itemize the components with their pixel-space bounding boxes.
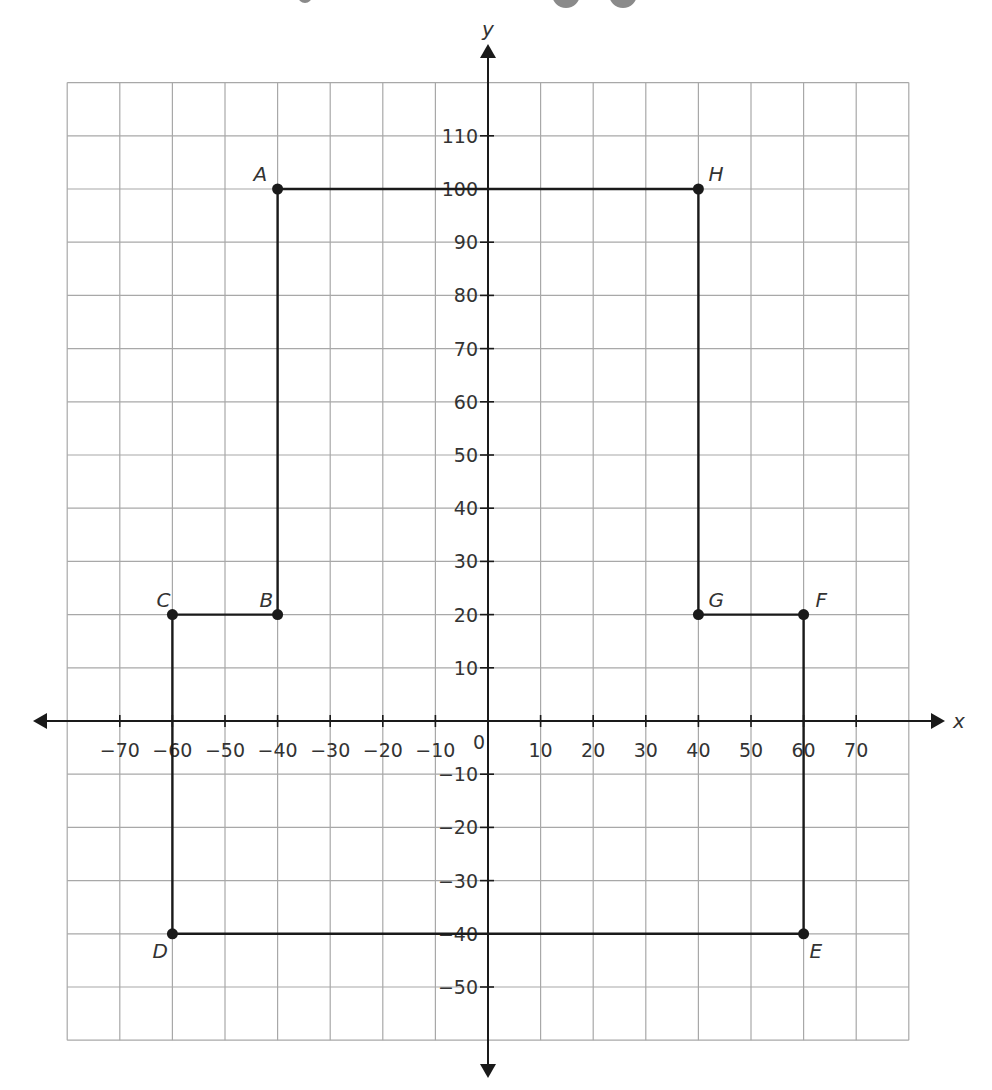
y-tick-label: 60 — [454, 391, 478, 413]
vertex-label-b: B — [260, 588, 274, 612]
x-tick-label: −20 — [363, 739, 403, 761]
y-tick-label: 80 — [454, 284, 478, 306]
y-axis-up-arrow-icon — [480, 44, 496, 58]
y-tick-label: 40 — [454, 497, 478, 519]
y-tick-label: 90 — [454, 231, 478, 253]
x-tick-label: 30 — [634, 739, 658, 761]
vertex-label-a: A — [252, 162, 268, 186]
x-tick-label: 10 — [529, 739, 553, 761]
origin-label: 0 — [473, 731, 485, 753]
x-tick-label: −50 — [205, 739, 245, 761]
y-tick-label: 50 — [454, 444, 478, 466]
coordinate-plane: xy −70−60−50−40−30−20−1010203040506070−5… — [0, 0, 992, 1090]
vertex-point-d — [167, 928, 178, 939]
vertex-label-d: D — [152, 939, 167, 963]
x-tick-label: −30 — [310, 739, 350, 761]
vertex-label-e: E — [810, 939, 823, 963]
vertex-point-a — [272, 184, 283, 195]
y-tick-label: 30 — [454, 550, 478, 572]
x-tick-label: 40 — [686, 739, 710, 761]
x-tick-label: −10 — [415, 739, 455, 761]
y-tick-label: −50 — [438, 976, 478, 998]
vertex-label-c: C — [156, 588, 170, 612]
vertex-label-f: F — [816, 588, 828, 612]
y-axis-label: y — [481, 17, 495, 41]
x-axis-right-arrow-icon — [931, 713, 945, 729]
vertex-point-g — [693, 609, 704, 620]
y-tick-label: 110 — [442, 125, 478, 147]
polygon-vertices: ABCDEFGH — [152, 162, 827, 963]
x-axis-label: x — [952, 709, 965, 733]
vertex-point-h — [693, 184, 704, 195]
vertex-point-b — [272, 609, 283, 620]
cropped-header-artifacts — [298, 0, 637, 8]
x-tick-label: 20 — [581, 739, 605, 761]
x-tick-label: 70 — [844, 739, 868, 761]
x-tick-label: 50 — [739, 739, 763, 761]
y-tick-label: −20 — [438, 816, 478, 838]
y-tick-label: −10 — [438, 763, 478, 785]
x-tick-label: −70 — [100, 739, 140, 761]
vertex-point-e — [798, 928, 809, 939]
vertex-point-f — [798, 609, 809, 620]
y-tick-label: 20 — [454, 604, 478, 626]
x-tick-label: −40 — [258, 739, 298, 761]
x-axis-left-arrow-icon — [33, 713, 47, 729]
vertex-label-g: G — [708, 588, 724, 612]
y-axis-down-arrow-icon — [480, 1064, 496, 1078]
y-tick-label: 10 — [454, 657, 478, 679]
y-tick-label: −30 — [438, 870, 478, 892]
vertex-label-h: H — [708, 162, 723, 186]
y-tick-label: 70 — [454, 338, 478, 360]
